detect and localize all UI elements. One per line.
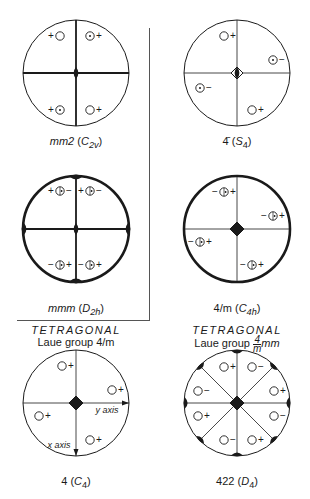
sign-label: + <box>48 104 54 115</box>
sign-label: − <box>240 259 246 270</box>
sign-label: + <box>96 434 102 445</box>
sign-label: − <box>188 236 194 247</box>
pole-dot-icon <box>253 264 255 266</box>
sign-label: + <box>279 210 285 221</box>
caption-422: 422 (D4) <box>162 475 310 490</box>
sign-label: + <box>78 185 84 196</box>
pole-marker-icon <box>86 106 94 114</box>
sign-label: + <box>230 186 236 197</box>
sign-label: − <box>279 54 285 65</box>
y-axis-label: y axis <box>94 405 119 415</box>
sign-label: − <box>258 361 264 372</box>
heading-title: TETRAGONAL <box>162 324 310 336</box>
sign-label: − <box>280 410 286 421</box>
sign-label: + <box>66 259 72 270</box>
pole-dot-icon <box>91 264 93 266</box>
pole-marker-icon <box>86 436 94 444</box>
two-fold-axis-icon <box>74 223 79 235</box>
pole-marker-icon <box>56 32 64 40</box>
sign-label: + <box>206 236 212 247</box>
pole-marker-icon <box>248 363 256 371</box>
pole-marker-icon <box>108 386 116 394</box>
heading-title: TETRAGONAL <box>1 324 151 336</box>
sign-label: − <box>204 385 210 396</box>
pole-marker-icon <box>194 412 202 420</box>
sign-label: + <box>48 185 54 196</box>
sign-label: − <box>261 210 267 221</box>
pole-marker-icon <box>194 387 202 395</box>
pole-marker-icon <box>270 387 278 395</box>
y-axis-arrow-icon <box>122 401 129 406</box>
sign-label: − <box>48 259 54 270</box>
sign-label: − <box>206 82 212 93</box>
heading-subtitle: Laue group 4/m <box>1 336 151 348</box>
pole-marker-icon <box>248 106 256 114</box>
pole-dot-icon <box>272 59 274 61</box>
sign-label: + <box>204 410 210 421</box>
sign-label: + <box>96 104 102 115</box>
two-fold-axis-icon <box>74 67 79 79</box>
x-axis-arrow-icon <box>74 449 79 456</box>
pole-dot-icon <box>61 190 63 192</box>
sign-label: + <box>45 410 51 421</box>
pole-dot-icon <box>89 35 91 37</box>
pole-marker-icon <box>270 412 278 420</box>
sign-label: + <box>258 259 264 270</box>
pole-dot-icon <box>201 241 203 243</box>
x-axis-label: x axis <box>46 440 71 450</box>
sign-label: + <box>258 434 264 445</box>
pole-marker-icon <box>220 436 228 444</box>
pole-marker-icon <box>35 412 43 420</box>
caption-s4: 4̄ (S4) <box>162 135 310 150</box>
sign-label: − <box>212 186 218 197</box>
four-fold-axis-icon <box>230 222 244 236</box>
pole-marker-icon <box>220 363 228 371</box>
sign-label: + <box>118 384 124 395</box>
sign-label: + <box>230 361 236 372</box>
sign-label: − <box>66 185 72 196</box>
heading-laue-4mmm: TETRAGONAL Laue group 4mmm <box>162 324 310 353</box>
sign-label: + <box>258 104 264 115</box>
sign-label: + <box>280 385 286 396</box>
sign-label: + <box>230 30 236 41</box>
sign-label: − <box>96 185 102 196</box>
sign-label: − <box>230 434 236 445</box>
caption-4m: 4/m (C4h) <box>162 302 310 317</box>
pole-dot-icon <box>59 109 61 111</box>
pole-dot-icon <box>61 264 63 266</box>
heading-laue-4m: TETRAGONAL Laue group 4/m <box>1 324 151 348</box>
sign-label: + <box>96 30 102 41</box>
stereogram-figure: +++++−−++−+−−+−+−+−+−+−+y axisx axis++++… <box>0 0 310 499</box>
pole-dot-icon <box>274 215 276 217</box>
pole-dot-icon <box>91 190 93 192</box>
caption-mmm: mmm (D2h) <box>1 302 151 317</box>
four-fold-axis-icon <box>69 396 83 410</box>
caption-c4: 4 (C4) <box>1 475 151 490</box>
pole-dot-icon <box>225 191 227 193</box>
caption-mm2: mm2 (C2v) <box>1 135 151 150</box>
pole-dot-icon <box>199 87 201 89</box>
sign-label: + <box>48 30 54 41</box>
sign-label: + <box>96 259 102 270</box>
pole-marker-icon <box>248 436 256 444</box>
sign-label: − <box>78 259 84 270</box>
sign-label: + <box>68 360 74 371</box>
vertical-divider <box>149 28 150 320</box>
heading-subtitle: Laue group 4mmm <box>162 336 310 353</box>
horizontal-divider <box>17 320 150 321</box>
pole-marker-icon <box>220 32 228 40</box>
pole-marker-icon <box>58 362 66 370</box>
